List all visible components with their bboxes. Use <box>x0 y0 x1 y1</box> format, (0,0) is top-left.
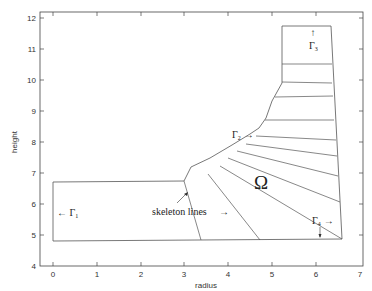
gamma3-arrow: ↑ <box>311 27 316 38</box>
y-tick-labels: 4 5 6 7 8 9 10 11 12 <box>27 14 36 271</box>
skeleton-lines-label: skeleton lines <box>152 206 207 217</box>
skeleton-arrow-right: → <box>219 206 229 217</box>
x-tick-label: 4 <box>226 270 231 279</box>
gamma3-label: Γ3 <box>309 40 318 52</box>
gamma1-label: ← Γ1 <box>57 207 78 219</box>
y-tick-label: 9 <box>32 107 37 116</box>
omega-label: Ω <box>254 172 268 193</box>
x-tick-label: 0 <box>51 270 56 279</box>
figure: 0 1 2 3 4 5 6 7 radius 4 5 6 7 8 9 10 11… <box>0 0 372 291</box>
y-tick-label: 10 <box>27 76 36 85</box>
y-tick-label: 5 <box>32 231 37 240</box>
y-tick-label: 4 <box>32 262 37 271</box>
x-axis-label: radius <box>195 281 217 290</box>
skeleton-arrow-up <box>177 194 186 203</box>
x-tick-label: 7 <box>358 270 363 279</box>
y-tick-label: 11 <box>28 45 37 54</box>
y-axis-label: height <box>10 130 19 153</box>
x-tick-label: 6 <box>314 270 319 279</box>
gamma4-down-arrowhead <box>319 234 322 238</box>
gamma4-label: Γ4→ <box>312 215 334 227</box>
x-tick-label: 3 <box>182 270 187 279</box>
gamma2-label: Γ2→ <box>232 129 254 141</box>
y-tick-label: 12 <box>27 14 36 23</box>
x-axis <box>53 12 316 266</box>
skeleton-lines <box>184 64 342 240</box>
y-tick-label: 7 <box>32 169 37 178</box>
x-tick-label: 5 <box>270 270 275 279</box>
x-tick-labels: 0 1 2 3 4 5 6 7 <box>51 270 363 279</box>
y-tick-label: 6 <box>32 200 37 209</box>
x-tick-label: 1 <box>95 270 100 279</box>
y-tick-label: 8 <box>32 138 37 147</box>
x-tick-label: 2 <box>139 270 144 279</box>
